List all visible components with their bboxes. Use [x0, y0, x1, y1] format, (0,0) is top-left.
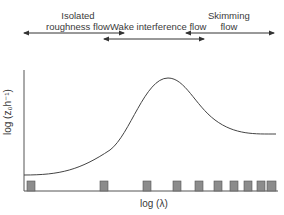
- roughness-elements: [27, 181, 276, 191]
- roughness-element: [257, 181, 265, 191]
- roughness-element: [143, 181, 151, 191]
- y-axis-label: log (z₀h⁻¹): [2, 89, 13, 135]
- diagram-canvas: [0, 0, 284, 215]
- roughness-element: [195, 181, 203, 191]
- roughness-element: [214, 181, 222, 191]
- roughness-element: [173, 181, 181, 191]
- roughness-curve: [24, 78, 276, 175]
- roughness-element: [100, 181, 108, 191]
- x-axis-label: log (λ): [140, 198, 168, 209]
- roughness-element: [244, 181, 252, 191]
- roughness-element: [267, 181, 276, 191]
- roughness-element: [27, 181, 35, 191]
- roughness-element: [230, 181, 238, 191]
